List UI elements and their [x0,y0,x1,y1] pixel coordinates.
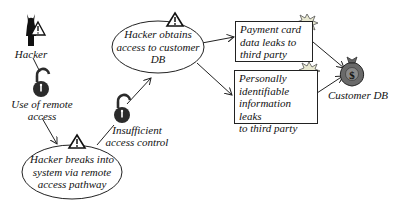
edge-obtains-payment [202,37,234,43]
svg-text:$: $ [349,69,355,81]
insufficient-control-label-line2: access control [96,136,178,148]
breaks-in-line1: Hacker breaks into [22,153,122,166]
pii-leak-line2: identifiable [239,85,313,98]
remote-access-label: Use of remote access [4,98,80,122]
remote-access-label-line2: access [4,110,80,122]
payment-leak-line1: Payment card [240,23,308,36]
pii-leak-line1: Personally [239,72,313,85]
hacker-label: Hacker [10,48,52,60]
insufficient-control-label-line1: Insufficient [96,124,178,136]
customer-db-label: Customer DB [325,89,391,101]
edge-insufficient-obtains [127,78,151,104]
warning-triangle-icon [167,13,183,26]
insufficient-control-label: Insufficient access control [96,124,178,148]
breaks-in-line2: system via remote [22,166,122,179]
open-padlock-icon [33,69,49,97]
obtains-access-line2: access to customer [112,41,204,54]
warning-triangle-icon [69,135,85,148]
obtains-access-line1: Hacker obtains [112,28,204,41]
remote-access-label-line1: Use of remote [4,98,80,110]
edge-payment-db [313,42,344,68]
breaks-in-line3: access pathway [22,178,122,191]
pii-leak-line4: to third party [239,122,313,135]
breaks-in-text: Hacker breaks into system via remote acc… [22,153,122,191]
money-bag-icon: $ [340,57,363,86]
pii-leak-line3: information leaks [239,97,313,122]
obtains-access-text: Hacker obtains access to customer DB [112,28,204,66]
open-padlock-icon [114,95,130,123]
edge-obtains-pii [197,63,232,95]
pii-leak-box: Personally identifiable information leak… [234,70,318,124]
payment-leak-box: Payment card data leaks to third party [235,21,313,62]
payment-leak-line2: data leaks to [240,36,308,49]
payment-leak-line3: third party [240,48,308,61]
obtains-access-line3: DB [112,53,204,66]
